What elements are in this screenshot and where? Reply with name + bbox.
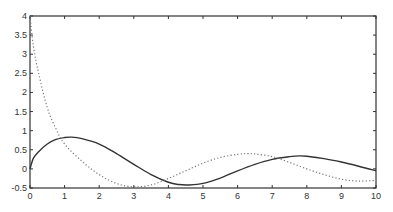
x-tick-label: 3 — [131, 191, 136, 201]
x-tick-label: 5 — [200, 191, 205, 201]
x-tick-label: 10 — [371, 191, 381, 201]
x-tick-label: 1 — [62, 191, 67, 201]
x-tick-label: 4 — [166, 191, 171, 201]
y-tick-label: 0 — [22, 164, 27, 174]
x-tick-label: 0 — [27, 191, 32, 201]
y-tick-label: 3 — [22, 49, 27, 59]
dotted-series-line — [30, 16, 376, 187]
axes-box — [30, 16, 376, 188]
x-tick-label: 8 — [304, 191, 309, 201]
y-tick-label: 0.5 — [14, 145, 27, 155]
plot-frame — [30, 16, 376, 188]
y-tick-label: -0.5 — [11, 183, 27, 193]
y-tick-label: 1 — [22, 126, 27, 136]
x-tick-label: 2 — [97, 191, 102, 201]
solid-series-line — [30, 137, 376, 185]
y-tick-label: 2 — [22, 87, 27, 97]
x-tick-label: 6 — [235, 191, 240, 201]
y-tick-label: 4 — [22, 11, 27, 21]
line-chart: 012345678910 -0.500.511.522.533.54 — [0, 0, 393, 212]
y-tick-label: 2.5 — [14, 68, 27, 78]
x-tick-label: 9 — [339, 191, 344, 201]
series-layer — [30, 16, 376, 187]
y-tick-label: 3.5 — [14, 30, 27, 40]
x-tick-label: 7 — [270, 191, 275, 201]
y-tick-label: 1.5 — [14, 107, 27, 117]
y-axis-ticks: -0.500.511.522.533.54 — [11, 11, 376, 193]
x-axis-ticks: 012345678910 — [27, 16, 381, 201]
